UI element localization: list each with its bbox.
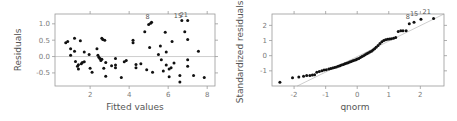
- data-point: [73, 50, 76, 53]
- data-point: [89, 67, 92, 70]
- data-point: [151, 71, 154, 74]
- x-tick-label: 0: [355, 91, 359, 99]
- data-point: [132, 41, 135, 44]
- data-point: [159, 45, 162, 48]
- data-point: [157, 53, 160, 56]
- data-point: [413, 21, 416, 24]
- data-point: [178, 81, 181, 84]
- outlier-label: 21: [180, 11, 188, 19]
- data-point: [315, 71, 318, 74]
- data-point: [125, 59, 128, 62]
- plot-frame: [55, 14, 215, 86]
- data-point: [408, 22, 411, 25]
- data-point: [313, 73, 316, 76]
- y-tick-label: 1.0: [39, 20, 50, 28]
- data-point: [192, 74, 195, 77]
- data-point: [325, 68, 328, 71]
- data-point: [405, 29, 408, 32]
- x-tick-label: -1: [322, 91, 329, 99]
- point-annotations: 81521: [406, 8, 431, 21]
- data-point: [74, 60, 77, 63]
- outlier-label: 15: [410, 10, 418, 18]
- data-point: [297, 75, 300, 78]
- data-point: [165, 64, 168, 67]
- data-point: [186, 58, 189, 61]
- data-point: [102, 67, 105, 70]
- data-point: [132, 39, 135, 42]
- data-point: [394, 36, 397, 39]
- data-point: [114, 64, 117, 67]
- data-point: [419, 18, 422, 21]
- data-point: [91, 71, 94, 74]
- data-point: [104, 75, 107, 78]
- y-axis-title: Residuals: [13, 28, 23, 71]
- data-point: [168, 75, 171, 78]
- data-point: [77, 67, 80, 70]
- y-tick-label: -1: [260, 67, 267, 75]
- data-point: [178, 74, 181, 77]
- data-point: [397, 30, 400, 33]
- x-tick-label: 1: [387, 91, 391, 99]
- data-point: [134, 66, 137, 69]
- data-point: [305, 74, 308, 77]
- data-point: [183, 30, 186, 33]
- y-tick-label: 0.0: [39, 53, 50, 61]
- data-point: [302, 75, 305, 78]
- y-tick-label: 0: [263, 52, 267, 60]
- data-point: [171, 40, 174, 43]
- y-tick-label: -0.5: [36, 69, 50, 77]
- data-point: [291, 76, 294, 79]
- data-point: [139, 62, 142, 65]
- x-tick-label: -2: [291, 91, 298, 99]
- data-point: [165, 50, 168, 53]
- data-point: [186, 65, 189, 68]
- data-point: [197, 50, 200, 53]
- data-point: [114, 66, 117, 69]
- data-point: [73, 37, 76, 40]
- normal-qq-panel: -2-1012-1012 81521 qnorm Standardized re…: [228, 0, 457, 121]
- x-axis-title: qnorm: [340, 102, 369, 112]
- y-axis-title: Standardized residuals: [235, 0, 245, 103]
- outlier-label: 21: [423, 8, 431, 16]
- x-tick-label: 4: [127, 91, 132, 99]
- outlier-label: 8: [146, 13, 150, 21]
- data-point: [88, 53, 91, 56]
- data-point: [104, 61, 107, 64]
- plot-frame: [272, 14, 444, 86]
- data-point: [134, 63, 137, 66]
- x-tick-label: 2: [418, 91, 422, 99]
- data-point: [66, 40, 69, 43]
- data-point: [278, 81, 281, 84]
- data-point: [186, 19, 189, 22]
- data-point: [173, 62, 176, 65]
- residuals-vs-fitted-panel: 2468-0.50.00.51.0 81521 Fitted values Re…: [0, 0, 228, 121]
- data-point: [114, 57, 117, 60]
- data-point: [77, 63, 80, 66]
- data-points: [278, 17, 435, 84]
- data-point: [95, 47, 98, 50]
- residuals-vs-fitted-plot: 2468-0.50.00.51.0 81521 Fitted values Re…: [0, 0, 228, 121]
- data-point: [100, 58, 103, 61]
- data-point: [401, 29, 404, 32]
- data-point: [69, 47, 72, 50]
- data-point: [203, 76, 206, 79]
- y-tick-label: 1: [263, 37, 267, 45]
- data-point: [308, 74, 311, 77]
- point-annotations: 81521: [146, 11, 188, 21]
- x-axis-title: Fitted values: [106, 102, 164, 112]
- data-point: [148, 46, 151, 49]
- data-point: [164, 31, 167, 34]
- normal-qq-plot: -2-1012-1012 81521 qnorm Standardized re…: [228, 0, 457, 121]
- data-point: [145, 68, 148, 71]
- data-point: [120, 76, 123, 79]
- data-points: [64, 19, 206, 84]
- x-tick-label: 2: [88, 91, 92, 99]
- data-point: [83, 60, 86, 63]
- data-point: [170, 66, 173, 69]
- data-point: [143, 30, 146, 33]
- data-point: [69, 54, 72, 57]
- data-point: [318, 70, 321, 73]
- data-point: [432, 17, 435, 20]
- data-point: [110, 64, 113, 67]
- data-point: [162, 69, 165, 72]
